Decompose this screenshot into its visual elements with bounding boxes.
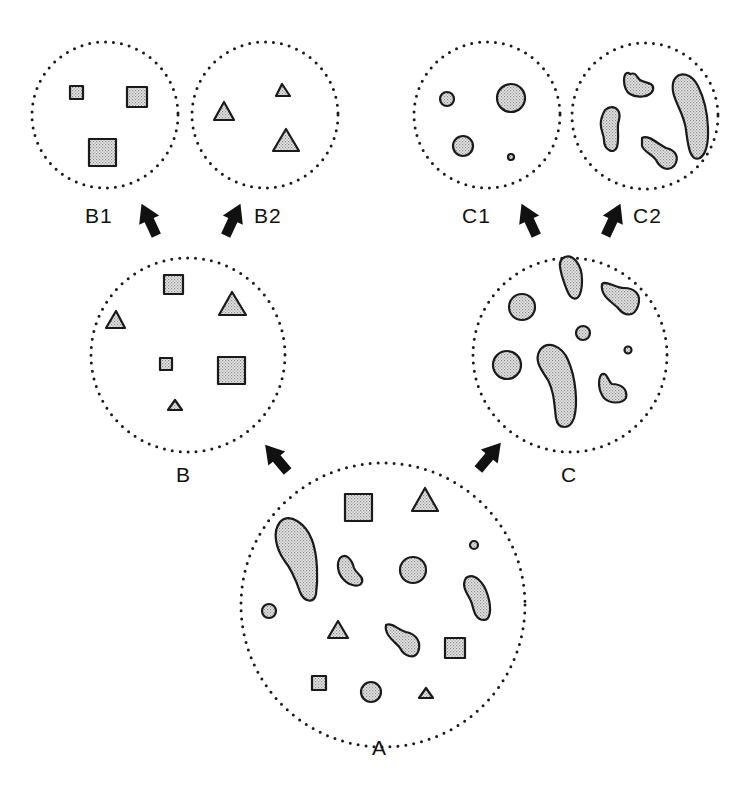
square-shape-icon [312, 676, 326, 690]
arrow-A-to-B-icon [257, 438, 296, 479]
blob-shape-icon [642, 137, 677, 169]
label-population-B: B [176, 463, 191, 487]
square-shape-icon [70, 86, 83, 99]
arrow-B-to-B1-icon [132, 199, 167, 240]
blob-shape-icon [602, 283, 639, 315]
label-population-C2: C2 [633, 204, 662, 228]
population-B1-members [70, 86, 147, 166]
triangle-shape-icon [419, 688, 433, 698]
blob-shape-icon [386, 624, 419, 656]
arrows [132, 199, 631, 478]
circle-shape-icon [400, 557, 426, 583]
square-shape-icon [345, 494, 372, 521]
population-C1-members [440, 84, 525, 160]
circle-shape-icon [440, 92, 454, 106]
blob-shape-icon [624, 73, 653, 97]
diagram-canvas [0, 0, 747, 804]
arrow-A-to-C-icon [470, 436, 509, 477]
circle-shape-icon [508, 154, 514, 160]
population-B-members [106, 275, 246, 410]
blob-shape-icon [560, 256, 582, 298]
circle-shape-icon [262, 604, 276, 618]
circle-shape-icon [497, 84, 525, 112]
triangle-shape-icon [412, 488, 438, 511]
label-population-C1: C1 [462, 204, 491, 228]
population-B2-boundary [192, 42, 338, 188]
arrow-C-to-C1-icon [512, 199, 547, 240]
blob-shape-icon [276, 518, 318, 600]
blob-shape-icon [601, 107, 620, 151]
label-population-C: C [561, 463, 577, 487]
circle-shape-icon [453, 136, 473, 156]
square-shape-icon [89, 139, 116, 166]
population-C2-members [601, 73, 708, 169]
circle-shape-icon [493, 351, 521, 379]
square-shape-icon [445, 638, 465, 658]
arrow-C-to-C2-icon [596, 199, 631, 240]
population-C-members [493, 256, 639, 427]
label-population-B2: B2 [254, 204, 282, 228]
population-B2-members [214, 84, 299, 151]
circle-shape-icon [625, 347, 632, 354]
blob-shape-icon [338, 556, 362, 586]
population-A-members [262, 488, 490, 702]
triangle-shape-icon [168, 400, 182, 410]
arrow-B-to-B2-icon [216, 199, 251, 240]
triangle-shape-icon [273, 129, 299, 151]
triangle-shape-icon [276, 84, 290, 96]
population-C1-boundary [414, 42, 560, 188]
triangle-shape-icon [219, 292, 246, 315]
square-shape-icon [127, 87, 147, 107]
circle-shape-icon [470, 541, 478, 549]
triangle-shape-icon [214, 102, 234, 120]
square-shape-icon [218, 357, 245, 384]
blob-shape-icon [599, 374, 626, 403]
blob-shape-icon [538, 345, 576, 427]
label-population-A: A [372, 736, 387, 760]
circle-shape-icon [361, 682, 381, 702]
square-shape-icon [164, 275, 183, 294]
triangle-shape-icon [328, 621, 348, 638]
triangle-shape-icon [106, 311, 125, 328]
blob-shape-icon [464, 576, 490, 620]
circle-shape-icon [576, 326, 590, 340]
label-population-B1: B1 [85, 204, 113, 228]
population-B-boundary [91, 258, 285, 452]
circle-shape-icon [509, 294, 535, 320]
square-shape-icon [160, 358, 172, 370]
blob-shape-icon [673, 74, 708, 158]
